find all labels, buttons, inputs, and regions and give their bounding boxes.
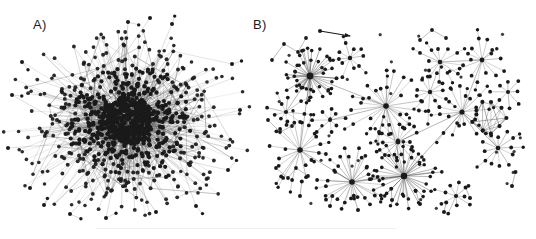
network-comparison-figure: A) B) — [0, 0, 536, 239]
baseline-artifact — [96, 228, 396, 229]
directed-edge-marker-icon — [318, 29, 350, 36]
network-graphics — [0, 0, 536, 239]
panel-b-edges — [267, 30, 523, 214]
